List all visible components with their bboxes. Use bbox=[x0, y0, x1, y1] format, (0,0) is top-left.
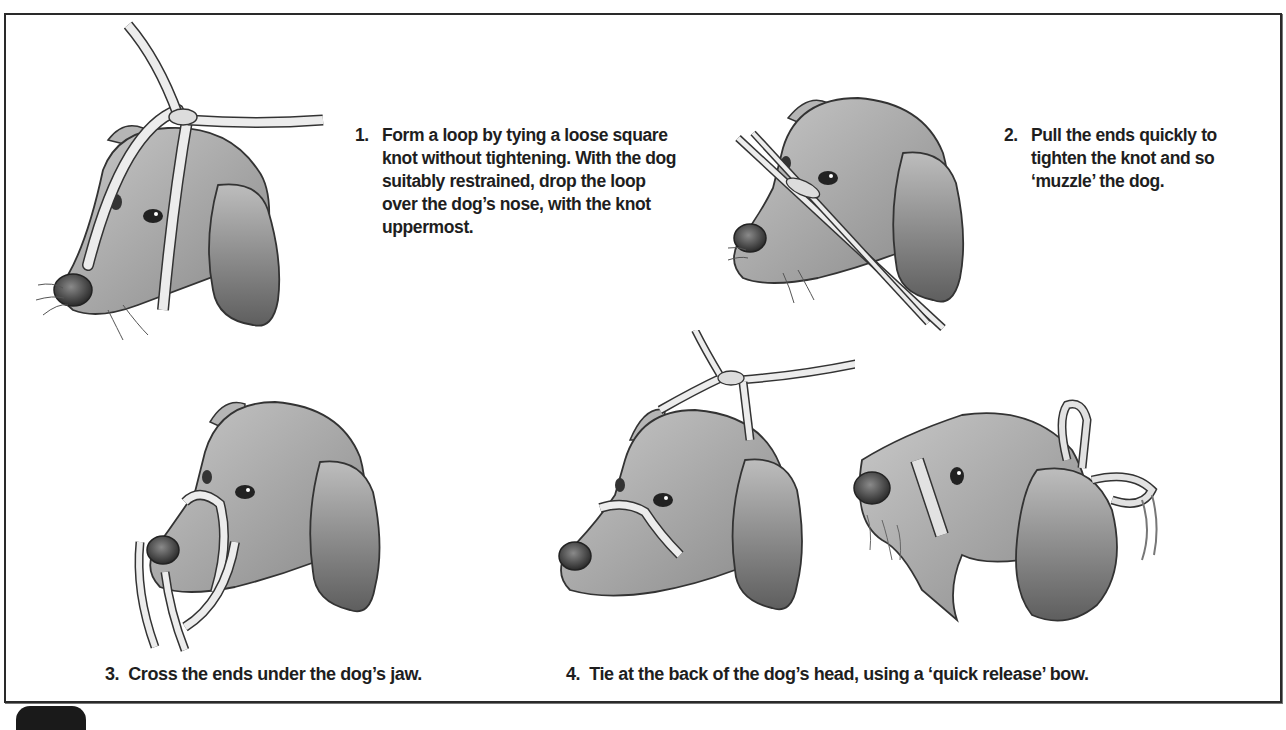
step-1-instruction: 1. Form a loop by tying a loose square k… bbox=[355, 124, 685, 239]
step-2-text: Pull the ends quickly to tighten the kno… bbox=[1004, 124, 1274, 193]
step-2-number: 2. bbox=[1004, 124, 1018, 147]
step-3-text: Cross the ends under the dog’s jaw. bbox=[128, 664, 422, 684]
step-1-dog-illustration bbox=[28, 20, 338, 340]
page-tab-marker bbox=[16, 706, 86, 730]
step-2-instruction: 2. Pull the ends quickly to tighten the … bbox=[1004, 124, 1274, 193]
step-4-dog-front-illustration bbox=[545, 330, 855, 620]
step-4-caption: 4.Tie at the back of the dog’s head, usi… bbox=[566, 663, 1089, 685]
step-3-number: 3. bbox=[105, 664, 119, 684]
step-2-dog-illustration bbox=[728, 78, 978, 338]
step-3-dog-illustration bbox=[125, 392, 385, 652]
step-3-caption: 3.Cross the ends under the dog’s jaw. bbox=[105, 663, 422, 685]
step-1-number: 1. bbox=[355, 124, 369, 147]
step-4-number: 4. bbox=[566, 664, 580, 684]
step-1-text: Form a loop by tying a loose square knot… bbox=[355, 124, 685, 239]
step-4-text: Tie at the back of the dog’s head, using… bbox=[589, 664, 1088, 684]
step-4-dog-side-illustration bbox=[842, 390, 1162, 630]
